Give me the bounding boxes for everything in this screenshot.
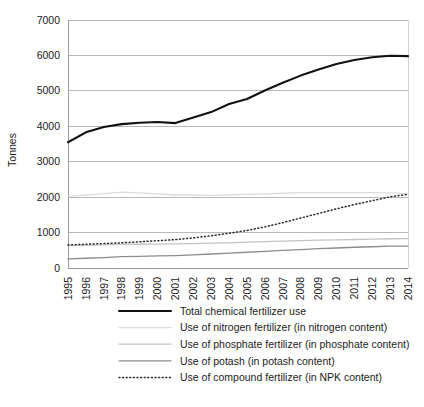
y-axis-title: Tonnes bbox=[6, 133, 18, 167]
x-tick-label: 2007 bbox=[277, 277, 289, 301]
chart-container: 01000200030004000500060007000 1995199619… bbox=[0, 0, 424, 407]
y-tick-label: 3000 bbox=[37, 155, 61, 167]
x-tick-label: 2010 bbox=[330, 277, 342, 301]
x-tick-label: 2008 bbox=[294, 277, 306, 301]
series-line-3 bbox=[68, 246, 408, 259]
x-tick-label: 2009 bbox=[312, 277, 324, 301]
legend-label: Use of phosphate fertilizer (in phosphat… bbox=[180, 338, 409, 350]
y-axis-title: Tonnes bbox=[6, 133, 18, 167]
x-tick-label: 1996 bbox=[80, 277, 92, 301]
y-tick-label: 5000 bbox=[37, 84, 61, 96]
x-tick-label: 1995 bbox=[62, 277, 74, 301]
axis-lines bbox=[68, 20, 408, 268]
x-tick-label: 2000 bbox=[151, 277, 163, 301]
data-series bbox=[68, 56, 408, 259]
x-tick-label: 2014 bbox=[402, 277, 414, 301]
x-axis-tick-labels: 1995199619971998199920002001200220032004… bbox=[62, 277, 414, 301]
x-tick-label: 2002 bbox=[187, 277, 199, 301]
gridlines bbox=[68, 20, 408, 268]
legend-label: Use of potash (in potash content) bbox=[180, 355, 335, 367]
x-tick-label: 1999 bbox=[133, 277, 145, 301]
line-chart: 01000200030004000500060007000 1995199619… bbox=[0, 0, 424, 407]
series-line-4 bbox=[68, 194, 408, 245]
y-tick-label: 1000 bbox=[37, 226, 61, 238]
series-line-1 bbox=[68, 192, 408, 196]
legend-label: Total chemical fertilizer use bbox=[180, 305, 306, 317]
x-tick-label: 2001 bbox=[169, 277, 181, 301]
x-tick-label: 2003 bbox=[205, 277, 217, 301]
x-tick-label: 1998 bbox=[115, 277, 127, 301]
series-line-0 bbox=[68, 56, 408, 142]
legend-label: Use of compound fertilizer (in NPK conte… bbox=[180, 371, 382, 383]
x-tick-label: 2013 bbox=[384, 277, 396, 301]
y-tick-label: 4000 bbox=[37, 120, 61, 132]
x-tick-label: 1997 bbox=[98, 277, 110, 301]
x-tick-label: 2011 bbox=[348, 277, 360, 300]
x-tick-label: 2012 bbox=[366, 277, 378, 301]
y-tick-label: 6000 bbox=[37, 49, 61, 61]
legend-label: Use of nitrogen fertilizer (in nitrogen … bbox=[180, 321, 387, 333]
series-line-2 bbox=[68, 239, 408, 246]
x-tick-label: 2005 bbox=[241, 277, 253, 301]
y-tick-label: 2000 bbox=[37, 191, 61, 203]
x-tick-label: 2004 bbox=[223, 277, 235, 301]
x-tick-label: 2006 bbox=[259, 277, 271, 301]
y-tick-label: 7000 bbox=[37, 14, 61, 26]
y-axis-tick-labels: 01000200030004000500060007000 bbox=[37, 14, 61, 274]
chart-legend: Total chemical fertilizer useUse of nitr… bbox=[119, 305, 409, 383]
y-tick-label: 0 bbox=[54, 262, 60, 274]
